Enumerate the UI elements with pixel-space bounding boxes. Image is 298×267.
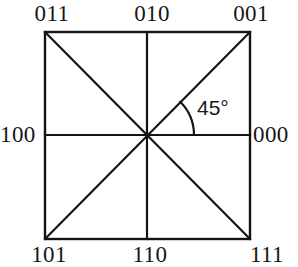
direction-label-101: 101 bbox=[25, 243, 73, 266]
direction-label-001: 001 bbox=[227, 2, 275, 25]
direction-code-diagram: 011 010 001 100 000 101 110 111 45° bbox=[0, 0, 298, 267]
direction-label-100: 100 bbox=[0, 123, 46, 146]
direction-label-000: 000 bbox=[253, 123, 298, 146]
direction-label-010: 010 bbox=[128, 2, 176, 25]
direction-label-110: 110 bbox=[126, 243, 174, 266]
direction-label-111: 111 bbox=[243, 243, 291, 266]
angle-value-label: 45° bbox=[197, 97, 229, 118]
direction-label-011: 011 bbox=[28, 2, 76, 25]
